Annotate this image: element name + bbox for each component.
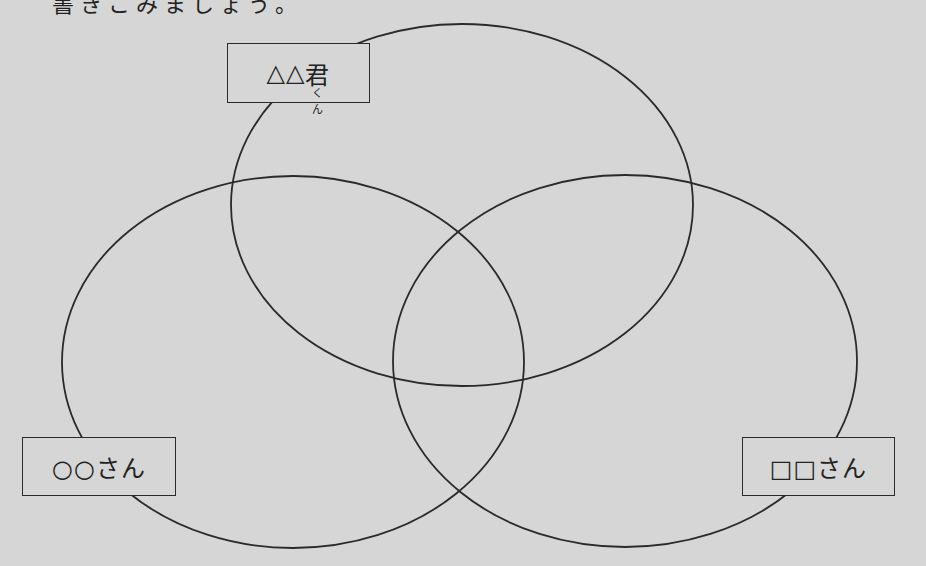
right-set-label: □□さん [742,437,895,496]
left-set-label-text: ○○さん [52,449,146,484]
top-set-label-prefix: △△ [267,59,306,87]
left-set-label: ○○さん [22,437,176,496]
top-set-label-ruby: くん [312,84,325,116]
right-set-label-text: □□さん [770,449,867,484]
top-set-label: △△君くん [227,43,370,103]
top-set-label-kanji: 君くん [305,56,330,91]
